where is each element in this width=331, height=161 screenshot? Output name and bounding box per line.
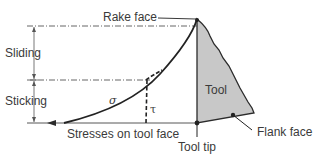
tool-label: Tool xyxy=(205,84,227,96)
flank-face-label: Flank face xyxy=(257,126,312,138)
sigma-label: σ xyxy=(109,95,117,106)
rake-face-leader xyxy=(158,18,196,19)
tool-tip-label: Tool tip xyxy=(178,141,216,153)
dimension-arrow-mid-up xyxy=(32,74,36,79)
baseline-arrow-icon xyxy=(47,120,56,126)
dimension-arrow-bottom xyxy=(32,117,36,122)
sticking-label: Sticking xyxy=(5,95,47,107)
sigma-curve xyxy=(64,19,197,123)
tool-body xyxy=(197,19,254,123)
tau-label: τ xyxy=(150,104,156,115)
sliding-label: Sliding xyxy=(5,47,41,59)
flank-face-leader xyxy=(233,115,252,130)
dimension-arrow-mid-down xyxy=(32,81,36,86)
stresses-label: Stresses on tool face xyxy=(67,128,179,140)
rake-face-label: Rake face xyxy=(103,11,157,23)
dimension-arrow-top xyxy=(32,27,36,32)
